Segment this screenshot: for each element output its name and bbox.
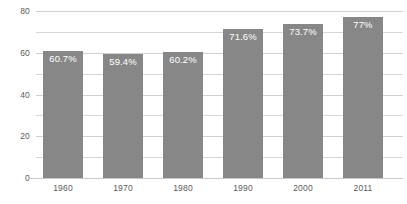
x-axis-tick-2000: 2000 (273, 184, 333, 193)
x-axis-tick-1980: 1980 (153, 184, 213, 193)
bar-chart: 60.7% 59.4% 60.2% 71.6% 73.7% 77% 80 60 … (0, 0, 407, 204)
bar-2000: 73.7% (283, 24, 323, 178)
y-axis-tick-60: 60 (4, 49, 30, 58)
y-axis-tick-40: 40 (4, 91, 30, 100)
bar-value-label-2000: 73.7% (283, 27, 323, 37)
x-axis-tick-1970: 1970 (93, 184, 153, 193)
y-axis-tick-80: 80 (4, 7, 30, 16)
bar-1970: 59.4% (103, 54, 143, 178)
gridline-80 (36, 11, 403, 12)
bar-2011: 77% (343, 17, 383, 178)
bar-value-label-1970: 59.4% (103, 57, 143, 67)
bar-value-label-1960: 60.7% (43, 54, 83, 64)
bar-1980: 60.2% (163, 52, 203, 178)
bar-value-label-2011: 77% (343, 20, 383, 30)
x-axis-tick-2011: 2011 (333, 184, 393, 193)
bar-1960: 60.7% (43, 51, 83, 178)
bar-value-label-1980: 60.2% (163, 55, 203, 65)
x-axis-tick-1990: 1990 (213, 184, 273, 193)
y-axis-tick-0: 0 (4, 174, 30, 183)
y-axis-tick-20: 20 (4, 132, 30, 141)
x-axis-line (30, 178, 403, 179)
bar-1990: 71.6% (223, 29, 263, 178)
bar-value-label-1990: 71.6% (223, 32, 263, 42)
plot-area: 60.7% 59.4% 60.2% 71.6% 73.7% 77% (36, 11, 403, 178)
x-axis-tick-1960: 1960 (33, 184, 93, 193)
